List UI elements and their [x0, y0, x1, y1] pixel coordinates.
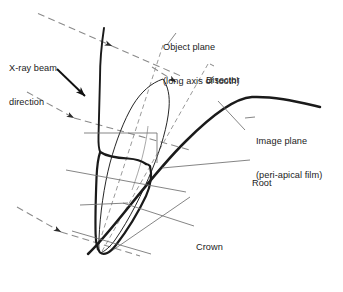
label-crown-line1: Crown — [196, 242, 223, 253]
tooth-root-outline-right — [100, 79, 169, 253]
xray-beam-upper — [38, 14, 182, 77]
label-bisector-line1: Bisector — [206, 75, 240, 86]
label-xray-line1: X-ray beam — [9, 63, 57, 74]
solid-arrow-icon — [57, 69, 85, 96]
leader-crown — [123, 203, 194, 226]
beam-lower-seg1 — [17, 207, 61, 232]
leader-image-plane — [245, 117, 255, 118]
tooth-inner-detail — [132, 126, 148, 190]
label-root-line1: Root — [252, 178, 272, 189]
object-plane-line — [96, 45, 163, 253]
ref-line-d — [113, 197, 190, 250]
ref-line-c — [80, 203, 128, 205]
figure-canvas: X-ray beam direction Object plane (long … — [0, 0, 343, 292]
beam-middle-seg2 — [74, 118, 190, 150]
leader-root — [162, 160, 250, 168]
ref-line-b — [66, 170, 186, 192]
label-xray-line2: direction — [9, 97, 57, 108]
label-xray-beam-direction: X-ray beam direction — [9, 40, 57, 131]
label-bisector: Bisector — [206, 52, 240, 109]
gum-line-ridge — [100, 152, 146, 164]
label-crown: Crown — [196, 219, 223, 276]
label-image-line1: Image plane — [256, 136, 322, 147]
label-root: Root — [252, 155, 272, 212]
